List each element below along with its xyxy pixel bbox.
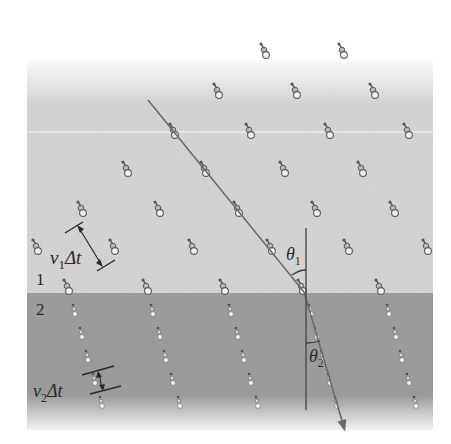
medium-2-label: 2 bbox=[36, 300, 45, 319]
media-panels bbox=[20, 55, 440, 435]
diagram-canvas: 1 2 v1Δt v2Δt θ1 θ2 bbox=[0, 0, 451, 444]
medium-1-label: 1 bbox=[36, 270, 45, 289]
theta2-subscript: 2 bbox=[318, 356, 324, 370]
theta1-subscript: 1 bbox=[295, 254, 301, 268]
refraction-diagram: 1 2 v1Δt v2Δt θ1 θ2 bbox=[0, 0, 451, 444]
v2-symbol: v bbox=[33, 381, 41, 401]
theta1-symbol: θ bbox=[286, 244, 295, 264]
dt1-symbol: Δt bbox=[64, 247, 82, 268]
dt2-symbol: Δt bbox=[46, 381, 64, 401]
theta2-symbol: θ bbox=[309, 346, 318, 366]
bottom-fade bbox=[20, 395, 440, 435]
